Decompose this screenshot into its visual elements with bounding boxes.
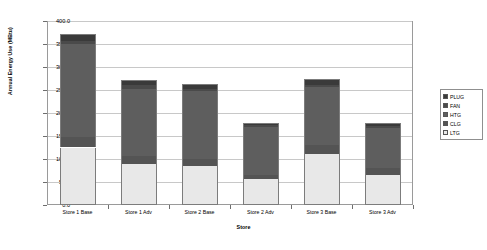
y-tick-mark (43, 159, 47, 160)
bar-segment-ltg[interactable] (60, 148, 96, 206)
bar-segment-htg[interactable] (182, 91, 218, 158)
y-tick-mark (43, 90, 47, 91)
x-tick-mark (413, 205, 414, 209)
legend-label: LTG (450, 130, 460, 136)
legend-label: CLG (450, 121, 461, 127)
bar-segment-ltg[interactable] (304, 154, 340, 205)
legend-item-clg[interactable]: CLG (443, 119, 480, 128)
y-tick-mark (43, 113, 47, 114)
legend-label: HTG (450, 112, 461, 118)
y-tick-mark (43, 205, 47, 206)
gridline (48, 44, 412, 45)
bar-segment-clg[interactable] (243, 175, 279, 179)
bar-segment-plug[interactable] (243, 123, 279, 125)
bar-stack[interactable] (304, 21, 340, 205)
bar-segment-fan[interactable] (182, 89, 218, 91)
bar-segment-fan[interactable] (121, 85, 157, 89)
bar-segment-plug[interactable] (304, 79, 340, 86)
bar-segment-clg[interactable] (121, 156, 157, 163)
bar-segment-ltg[interactable] (182, 166, 218, 205)
bar-segment-htg[interactable] (243, 127, 279, 175)
legend-swatch-icon (443, 103, 448, 108)
bar-segment-ltg[interactable] (243, 179, 279, 205)
x-axis-title: Store (0, 224, 487, 230)
bar-segment-plug[interactable] (182, 84, 218, 89)
bar-segment-clg[interactable] (304, 145, 340, 154)
bar-stack[interactable] (121, 21, 157, 205)
gridline (48, 182, 412, 183)
gridline (48, 136, 412, 137)
legend-swatch-icon (443, 112, 448, 117)
bar-segment-clg[interactable] (60, 137, 96, 147)
bar-segment-htg[interactable] (60, 44, 96, 137)
bar-chart: Annual Energy Use (MBtu) 0.050.0100.0150… (0, 0, 487, 250)
bar-segment-clg[interactable] (365, 168, 401, 175)
bar-segment-fan[interactable] (243, 125, 279, 126)
y-axis-title: Annual Energy Use (MBtu) (7, 1, 13, 121)
bar-segment-clg[interactable] (182, 159, 218, 166)
bar-segment-ltg[interactable] (365, 175, 401, 205)
y-tick-mark (43, 21, 47, 22)
legend-swatch-icon (443, 121, 448, 126)
legend-label: PLUG (450, 94, 464, 100)
bar-segment-plug[interactable] (121, 80, 157, 85)
bar-segment-fan[interactable] (60, 41, 96, 44)
legend-item-plug[interactable]: PLUG (443, 92, 480, 101)
y-tick-mark (43, 136, 47, 137)
bar-segment-htg[interactable] (365, 128, 401, 168)
legend-label: FAN (450, 103, 460, 109)
legend-swatch-icon (443, 130, 448, 135)
y-tick-mark (43, 44, 47, 45)
bar-stack[interactable] (182, 21, 218, 205)
chart-legend: PLUGFANHTGCLGLTG (440, 89, 483, 140)
bar-stack[interactable] (365, 21, 401, 205)
legend-item-htg[interactable]: HTG (443, 110, 480, 119)
bar-segment-htg[interactable] (304, 87, 340, 145)
bar-segment-plug[interactable] (60, 34, 96, 41)
gridline (48, 159, 412, 160)
legend-swatch-icon (443, 94, 448, 99)
y-tick-mark (43, 67, 47, 68)
gridline (48, 90, 412, 91)
legend-item-ltg[interactable]: LTG (443, 128, 480, 137)
bar-stack[interactable] (60, 21, 96, 205)
bar-segment-fan[interactable] (304, 85, 340, 86)
bar-segment-plug[interactable] (365, 123, 401, 126)
bar-stack[interactable] (243, 21, 279, 205)
y-tick-mark (43, 182, 47, 183)
gridline (48, 113, 412, 114)
x-tick-label: Store 3 Adv (346, 209, 420, 215)
gridline (48, 21, 412, 22)
bar-segment-htg[interactable] (121, 89, 157, 156)
bar-segment-fan[interactable] (365, 126, 401, 128)
bar-segment-ltg[interactable] (121, 164, 157, 205)
legend-item-fan[interactable]: FAN (443, 101, 480, 110)
plot-area (47, 21, 413, 205)
gridline (48, 67, 412, 68)
